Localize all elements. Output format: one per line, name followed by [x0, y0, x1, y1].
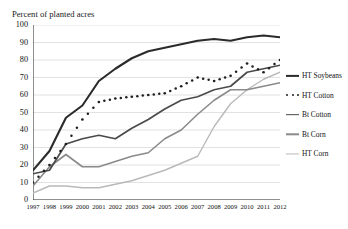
y-axis-tick-label: 40 — [6, 125, 28, 134]
y-axis-tick-label: 90 — [6, 38, 28, 47]
x-axis-tick-label: 2000 — [73, 203, 91, 210]
x-axis-tick-label: 2004 — [139, 203, 157, 210]
x-axis-tick-label: 1999 — [57, 203, 75, 210]
y-axis-tick-label: 30 — [6, 143, 28, 152]
legend-label: HT Soybeans — [302, 72, 342, 79]
x-axis-tick-label: 2009 — [222, 203, 240, 210]
y-axis-tick-label: 60 — [6, 90, 28, 99]
legend-item-ht-cotton[interactable]: HT Cotton — [286, 86, 348, 106]
y-axis-title: Percent of planted acres — [12, 9, 94, 19]
x-axis-tick-label: 2010 — [238, 203, 256, 210]
legend-label: HT Cotton — [302, 92, 334, 99]
dotted-line-swatch-icon — [286, 91, 299, 100]
line-swatch-icon — [286, 110, 299, 119]
x-axis-tick-label: 2006 — [172, 203, 190, 210]
legend-item-ht-corn[interactable]: HT Corn — [286, 144, 348, 164]
line-swatch-icon — [286, 71, 299, 80]
x-axis-tick-label: 1997 — [24, 203, 42, 210]
line-swatch-icon — [286, 149, 299, 158]
x-axis-tick-label: 2003 — [123, 203, 141, 210]
x-axis-tick-label: 2012 — [271, 203, 289, 210]
line-chart-svg — [33, 25, 280, 200]
x-axis-tick-label: 2005 — [156, 203, 174, 210]
legend-item-ht-soybeans[interactable]: HT Soybeans — [286, 66, 348, 86]
legend-label: Bt Corn — [302, 131, 326, 138]
x-axis-tick-label: 2001 — [90, 203, 108, 210]
plot-area — [33, 25, 280, 200]
cropped-header-text: · · · · · — [14, 0, 35, 3]
x-axis-tick-label: 1998 — [40, 203, 58, 210]
y-axis-tick-label: 100 — [6, 20, 28, 29]
x-axis-tick-label: 2002 — [106, 203, 124, 210]
legend-item-bt-cotton[interactable]: Bt Cotton — [286, 105, 348, 125]
y-axis-tick-label: 50 — [6, 108, 28, 117]
line-swatch-icon — [286, 130, 299, 139]
legend-item-bt-corn[interactable]: Bt Corn — [286, 125, 348, 145]
x-axis-tick-label: 2007 — [189, 203, 207, 210]
y-axis-tick-label: 20 — [6, 160, 28, 169]
legend-label: HT Corn — [302, 150, 328, 157]
y-axis-tick-label: 80 — [6, 55, 28, 64]
x-axis-tick-label: 2008 — [205, 203, 223, 210]
chart-figure: · · · · · Percent of planted acres 01020… — [0, 0, 348, 229]
y-axis-tick-label: 10 — [6, 178, 28, 187]
legend-label: Bt Cotton — [302, 111, 331, 118]
y-axis-tick-label: 70 — [6, 73, 28, 82]
chart-legend: HT Soybeans HT Cotton Bt Cotton Bt Corn … — [286, 66, 348, 164]
x-axis-tick-label: 2011 — [255, 203, 273, 210]
